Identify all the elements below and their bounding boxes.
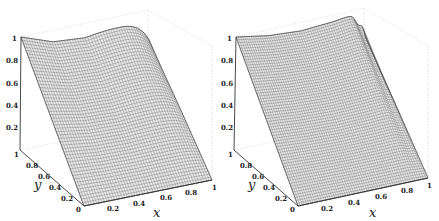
x-tick-0.8: 0.8 <box>185 188 197 197</box>
z-tick-labels: 1 0.8 0.6 0.4 0.2 <box>6 34 18 132</box>
surface-mesh <box>236 17 428 207</box>
x-tick-0.2: 0.2 <box>321 204 333 213</box>
x-tick-0.2: 0.2 <box>107 204 119 213</box>
x-tick-0.4: 0.4 <box>133 199 145 208</box>
z-tick-0.2: 0.2 <box>221 123 233 132</box>
z-tick-0.4: 0.4 <box>6 101 18 110</box>
z-axis-line <box>20 37 21 150</box>
z-tick-1: 1 <box>12 34 17 43</box>
surface-plot-left-svg: 1 0.8 0.6 0.4 0.2 1 0.8 0.6 0.4 0.2 0 0.… <box>0 0 220 221</box>
surface-plot-left: 1 0.8 0.6 0.4 0.2 1 0.8 0.6 0.4 0.2 0 0.… <box>0 0 220 221</box>
z-axis-line <box>234 37 236 150</box>
z-tick-0.6: 0.6 <box>221 79 233 88</box>
x-axis-label: x <box>153 205 161 220</box>
x-tick-1: 1 <box>212 183 217 192</box>
y-axis-label: y <box>247 177 256 192</box>
y-tick-0.4: 0.4 <box>49 183 61 192</box>
x-tick-1: 1 <box>427 181 432 190</box>
z-tick-0.6: 0.6 <box>6 79 18 88</box>
y-tick-0.2: 0.2 <box>275 194 287 203</box>
y-tick-0: 0 <box>76 205 81 214</box>
y-tick-0.4: 0.4 <box>263 183 275 192</box>
x-tick-0.6: 0.6 <box>160 193 172 202</box>
x-tick-0.6: 0.6 <box>375 192 387 201</box>
y-tick-0.2: 0.2 <box>61 194 73 203</box>
y-tick-0.8: 0.8 <box>26 161 38 170</box>
z-tick-0.2: 0.2 <box>6 123 18 132</box>
z-tick-0.4: 0.4 <box>221 101 233 110</box>
surface-plot-right: 1 0.8 0.6 0.4 0.2 1 0.8 0.6 0.4 0.2 0 0.… <box>219 0 439 221</box>
z-tick-labels: 1 0.8 0.6 0.4 0.2 <box>221 34 233 132</box>
z-tick-1: 1 <box>227 34 232 43</box>
x-tick-0.4: 0.4 <box>348 198 360 207</box>
y-axis-label: y <box>33 177 42 192</box>
surface-plot-right-svg: 1 0.8 0.6 0.4 0.2 1 0.8 0.6 0.4 0.2 0 0.… <box>219 0 439 221</box>
y-tick-1: 1 <box>14 150 19 159</box>
x-axis-label: x <box>369 205 377 220</box>
z-tick-0.8: 0.8 <box>6 56 18 65</box>
z-tick-0.8: 0.8 <box>221 56 233 65</box>
y-tick-1: 1 <box>228 150 233 159</box>
x-tick-0.8: 0.8 <box>401 186 413 195</box>
y-tick-0: 0 <box>290 205 295 214</box>
y-tick-0.8: 0.8 <box>240 161 252 170</box>
